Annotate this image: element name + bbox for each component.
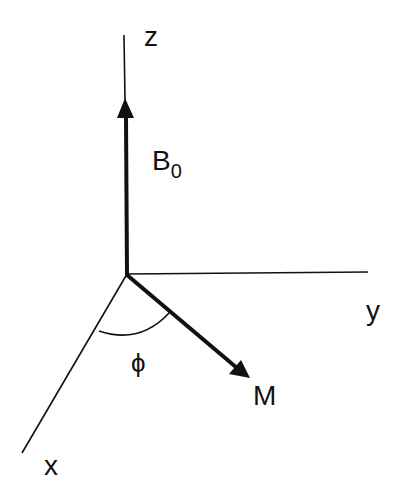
b0-label-main: B xyxy=(152,145,171,176)
m-label: M xyxy=(253,380,276,411)
b0-vector xyxy=(126,118,127,275)
angle-arc xyxy=(99,312,170,335)
y-axis xyxy=(127,272,368,274)
y-axis-label: y xyxy=(366,295,380,326)
angle-label: ϕ xyxy=(131,348,146,378)
b0-arrowhead-icon xyxy=(117,98,134,118)
b0-label-subscript: 0 xyxy=(171,160,182,182)
z-axis-label: z xyxy=(144,21,158,52)
x-axis xyxy=(22,274,127,453)
z-axis xyxy=(124,35,125,100)
magnetization-diagram: z B0 y ϕ M x xyxy=(0,0,407,493)
b0-label: B0 xyxy=(152,145,182,182)
x-axis-label: x xyxy=(44,450,58,481)
